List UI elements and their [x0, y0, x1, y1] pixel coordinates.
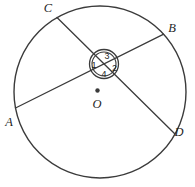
angle-label-1: 1 — [91, 60, 96, 70]
geometry-figure: 1 3 2 4 C B A D O — [0, 0, 195, 187]
angle-label-4: 4 — [101, 69, 106, 79]
point-label-b: B — [168, 21, 176, 35]
outer-circle — [14, 6, 186, 178]
chord-ab — [16, 34, 164, 108]
center-label: O — [92, 97, 101, 111]
chord-cd — [57, 18, 175, 135]
point-label-c: C — [44, 1, 53, 15]
point-label-a: A — [4, 115, 13, 129]
point-label-d: D — [173, 125, 183, 139]
angle-label-2: 2 — [112, 63, 117, 73]
center-dot — [95, 88, 99, 92]
angle-label-3: 3 — [104, 51, 109, 61]
